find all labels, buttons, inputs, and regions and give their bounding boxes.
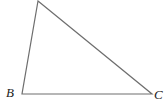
triangle-figure: B C [0, 0, 166, 105]
vertex-label-b: B [6, 86, 14, 99]
vertex-label-c: C [154, 88, 163, 101]
triangle-outline [22, 1, 152, 94]
triangle-drawing [0, 0, 166, 105]
